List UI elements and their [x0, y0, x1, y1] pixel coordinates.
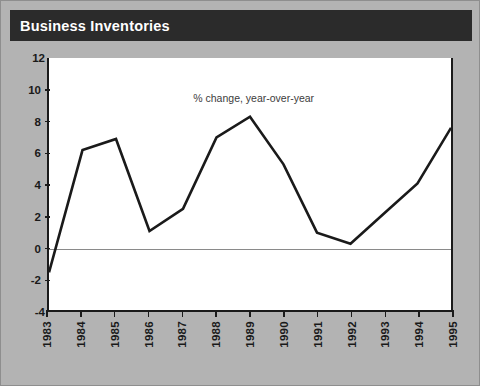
x-axis-tick: 1983: [41, 310, 53, 348]
x-axis-tick-label: 1986: [143, 321, 155, 348]
y-axis-tick-label: 12: [32, 52, 49, 64]
y-axis-tick-label: -2: [31, 274, 45, 286]
business-inventories-figure: Business Inventories -4-2024681012 % cha…: [0, 0, 480, 386]
x-axis-tick-mark: [182, 310, 184, 317]
x-axis-tick-mark: [283, 310, 285, 317]
x-axis-tick-label: 1989: [244, 321, 256, 348]
y-axis-tick-label: 0: [35, 243, 45, 255]
x-axis-tick-label: 1985: [109, 321, 121, 348]
x-axis-tick: 1988: [210, 310, 222, 348]
x-axis-tick-label: 1990: [278, 321, 290, 348]
x-axis-tick-label: 1991: [312, 321, 324, 348]
x-axis-tick-mark: [148, 310, 150, 317]
x-axis-tick-mark: [46, 310, 48, 317]
y-axis-tick-label: 2: [35, 211, 45, 223]
y-axis-tick: 8: [35, 116, 49, 128]
y-axis-tick-label: 4: [35, 179, 45, 191]
x-axis-tick-label: 1988: [210, 321, 222, 348]
x-axis-tick-mark: [385, 310, 387, 317]
y-axis-tick-mark: [45, 248, 50, 250]
x-axis-tick: 1991: [312, 310, 324, 348]
x-axis-tick: 1994: [413, 310, 425, 348]
y-axis-tick: -2: [31, 274, 49, 286]
x-axis-tick-label: 1994: [413, 321, 425, 348]
page-title: Business Inventories: [10, 18, 170, 34]
x-axis-tick-mark: [452, 310, 454, 317]
x-axis-tick-label: 1983: [41, 321, 53, 348]
y-axis-tick: 10: [28, 84, 49, 96]
x-axis-tick: 1990: [278, 310, 290, 348]
plot-area: -4-2024681012 % change, year-over-year: [47, 58, 453, 312]
y-axis-tick-label: 10: [28, 84, 45, 96]
y-axis-tick-mark: [45, 121, 50, 123]
x-axis-tick: 1989: [244, 310, 256, 348]
chart-annotation: % change, year-over-year: [193, 92, 314, 104]
x-axis-tick-label: 1993: [379, 321, 391, 348]
x-axis-tick: 1985: [109, 310, 121, 348]
x-axis-tick-mark: [80, 310, 82, 317]
x-axis-tick-mark: [418, 310, 420, 317]
x-axis-tick: 1995: [447, 310, 459, 348]
x-axis-tick-mark: [351, 310, 353, 317]
y-axis-tick: 0: [35, 243, 49, 255]
y-axis-tick: 6: [35, 147, 49, 159]
x-axis-tick: 1986: [143, 310, 155, 348]
x-axis-tick-mark: [114, 310, 116, 317]
y-axis-tick: 12: [32, 52, 49, 64]
y-axis-tick: 2: [35, 211, 49, 223]
x-axis-tick: 1984: [75, 310, 87, 348]
x-axis-tick: 1987: [176, 310, 188, 348]
x-axis-tick-mark: [249, 310, 251, 317]
y-axis-tick-mark: [45, 184, 50, 186]
x-axis-tick: 1993: [379, 310, 391, 348]
x-axis-tick-label: 1995: [447, 321, 459, 348]
data-series-line: [49, 117, 451, 273]
x-axis-tick-label: 1992: [346, 321, 358, 348]
y-axis-tick-mark: [45, 89, 50, 91]
y-axis-tick-label: 8: [35, 116, 45, 128]
x-axis-tick-label: 1987: [176, 321, 188, 348]
x-axis-tick-mark: [317, 310, 319, 317]
x-axis-tick: 1992: [346, 310, 358, 348]
x-axis-line: 1983198419851986198719881989199019911992…: [47, 310, 453, 312]
y-axis-tick-mark: [45, 153, 50, 155]
y-axis-tick-mark: [45, 216, 50, 218]
chart-title-band: Business Inventories: [10, 10, 472, 41]
y-axis-tick: 4: [35, 179, 49, 191]
y-axis-tick-label: 6: [35, 147, 45, 159]
x-axis-tick-mark: [215, 310, 217, 317]
x-axis-tick-label: 1984: [75, 321, 87, 348]
y-axis-tick-mark: [45, 280, 50, 282]
